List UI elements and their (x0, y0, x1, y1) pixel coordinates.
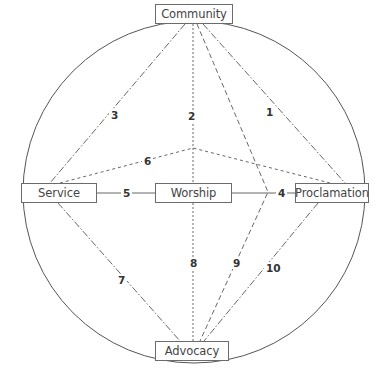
connection-label-3: 3 (109, 109, 120, 121)
connection-label-6: 6 (142, 155, 153, 167)
connection-label-4: 4 (276, 187, 287, 199)
connection-line-1 (203, 24, 345, 183)
connection-line-10 (204, 203, 318, 341)
node-advocacy: Advocacy (155, 341, 229, 361)
connection-label-9: 9 (231, 257, 242, 269)
relationship-diagram: Community Service Worship Proclamation A… (0, 0, 389, 384)
connection-line-3 (50, 24, 185, 183)
node-worship: Worship (155, 183, 232, 203)
connection-label-5: 5 (121, 187, 132, 199)
node-community: Community (155, 4, 233, 24)
connection-label-8: 8 (188, 257, 199, 269)
connection-line-7 (58, 203, 180, 341)
connection-label-2: 2 (186, 110, 197, 122)
node-service: Service (21, 183, 97, 203)
node-proclamation: Proclamation (295, 183, 369, 203)
connection-label-1: 1 (264, 106, 275, 118)
connection-line-6 (60, 148, 330, 183)
connection-label-7: 7 (116, 274, 127, 286)
connection-label-10: 10 (264, 262, 283, 274)
